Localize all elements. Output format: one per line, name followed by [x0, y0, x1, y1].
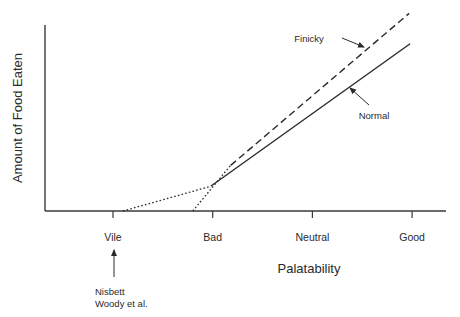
x-tick-label-vile: Vile: [104, 231, 121, 243]
x-tick-label-neutral: Neutral: [295, 231, 329, 243]
x-tick-label-good: Good: [399, 231, 425, 243]
finicky-arrow: [342, 38, 364, 47]
x-tick-label-bad: Bad: [203, 231, 222, 243]
x-axis-label: Palatability: [278, 261, 341, 276]
annotation-normal-label: Normal: [359, 110, 390, 121]
annotation-reference-line2: Woody et al.: [95, 298, 148, 309]
annotation-reference-line1: Nisbett: [95, 286, 125, 297]
series-finicky-dotted-segment: [193, 165, 231, 211]
normal-arrow: [350, 88, 369, 105]
chart: VileBadNeutralGood Amount of Food Eaten …: [0, 0, 460, 317]
series-normal-dotted-segment: [123, 186, 211, 211]
x-ticks: VileBadNeutralGood: [104, 211, 425, 243]
y-axis-label: Amount of Food Eaten: [10, 53, 25, 183]
annotation-finicky-label: Finicky: [294, 33, 324, 44]
